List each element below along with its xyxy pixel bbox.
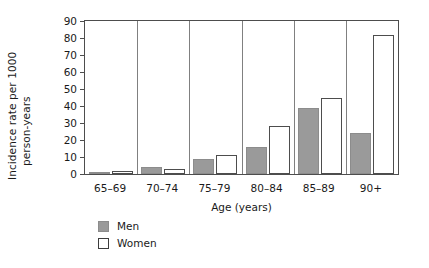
y-axis-tick-label: 90	[64, 15, 77, 27]
y-axis-title: Incidence rate per 1000 person-years	[6, 10, 42, 180]
bar-men	[246, 147, 267, 174]
bar-men	[193, 159, 214, 174]
y-axis-tick-label: 10	[64, 151, 77, 163]
y-axis-title-line-1: Incidence rate per 1000	[6, 52, 18, 180]
y-axis-tick-label: 50	[64, 83, 77, 95]
bar-women	[321, 98, 342, 175]
y-axis-tick-label: 40	[64, 100, 77, 112]
bar-group	[242, 21, 294, 174]
bar-group	[85, 21, 137, 174]
x-axis-tick-label: 75–79	[198, 182, 230, 194]
x-axis-tick-label: 90+	[360, 182, 382, 194]
bar-men	[350, 133, 371, 174]
x-axis-tick-label: 85–89	[303, 182, 335, 194]
bar-men	[141, 167, 162, 174]
x-axis-title: Age (years)	[84, 201, 399, 213]
y-axis-tick-label: 80	[64, 32, 77, 44]
bar-group	[189, 21, 241, 174]
x-axis-tick-label: 70–74	[146, 182, 178, 194]
bar-women	[164, 169, 185, 174]
legend-item-men: Men	[98, 218, 157, 235]
bar-men	[298, 108, 319, 174]
y-axis-tick-label: 60	[64, 66, 77, 78]
bar-group	[294, 21, 346, 174]
plot-area: 0102030405060708090	[84, 20, 399, 175]
y-axis-tick-label: 20	[64, 134, 77, 146]
bar-women	[269, 126, 290, 174]
x-axis-tick-label: 65–69	[94, 182, 126, 194]
bar-group	[137, 21, 189, 174]
y-axis-tick-label: 0	[70, 168, 77, 180]
legend-swatch-men-icon	[98, 221, 109, 232]
y-axis-tick-label: 70	[64, 49, 77, 61]
y-axis-tick	[80, 174, 85, 175]
y-axis-tick-label: 30	[64, 117, 77, 129]
chart-legend: Men Women	[98, 218, 157, 252]
bar-women	[373, 35, 394, 174]
bar-men	[89, 172, 110, 174]
x-axis-tick-label: 80–84	[251, 182, 283, 194]
bar-group	[346, 21, 398, 174]
legend-label-men: Men	[117, 221, 139, 232]
bar-women	[112, 171, 133, 174]
legend-item-women: Women	[98, 235, 157, 252]
bar-women	[216, 155, 237, 174]
incidence-rate-bar-chart: Incidence rate per 1000 person-years 010…	[0, 0, 429, 268]
y-axis-title-line-2: person-years	[20, 96, 32, 166]
legend-swatch-women-icon	[98, 238, 109, 249]
legend-label-women: Women	[117, 238, 157, 249]
